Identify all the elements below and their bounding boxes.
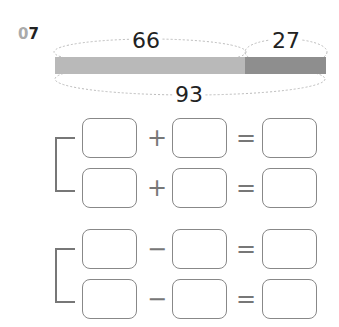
equals-sign: = [236, 287, 256, 311]
total-label: 93 [173, 84, 205, 106]
add2-box-b[interactable] [172, 168, 227, 208]
sub2-box-a[interactable] [82, 279, 137, 319]
tape-part-1 [55, 57, 245, 74]
plus-sign: + [147, 176, 167, 200]
part2-label: 27 [270, 30, 302, 52]
add1-box-result[interactable] [262, 118, 317, 158]
add2-box-result[interactable] [262, 168, 317, 208]
tape-part-2 [245, 57, 326, 74]
equals-sign: = [236, 237, 256, 261]
sub2-box-result[interactable] [262, 279, 317, 319]
part1-label: 66 [130, 30, 162, 52]
minus-sign: − [147, 287, 167, 311]
plus-sign: + [147, 126, 167, 150]
sub2-box-b[interactable] [172, 279, 227, 319]
tape-diagram-braces [0, 0, 339, 110]
equals-sign: = [236, 126, 256, 150]
equals-sign: = [236, 176, 256, 200]
sub1-box-a[interactable] [82, 229, 137, 269]
sub1-box-result[interactable] [262, 229, 317, 269]
add1-box-a[interactable] [82, 118, 137, 158]
add2-box-a[interactable] [82, 168, 137, 208]
add1-box-b[interactable] [172, 118, 227, 158]
subtraction-bracket [55, 248, 75, 303]
addition-bracket [55, 137, 75, 192]
sub1-box-b[interactable] [172, 229, 227, 269]
minus-sign: − [147, 237, 167, 261]
